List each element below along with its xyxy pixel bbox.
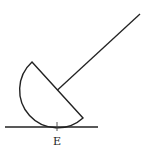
rod-line	[58, 14, 141, 90]
contact-point-label: E	[53, 135, 61, 148]
hemisphere-shape	[20, 62, 83, 128]
diagram-canvas: E	[0, 0, 147, 151]
